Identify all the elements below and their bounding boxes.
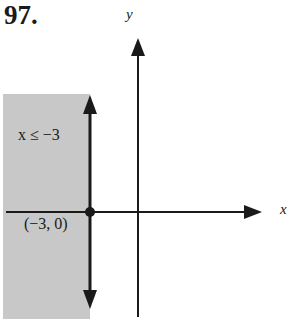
problem-number: 97. [4,0,38,31]
point-label: (−3, 0) [24,215,68,233]
graph-canvas: 97. y x x ≤ −3 (−3, 0) [0,0,287,319]
region-label: x ≤ −3 [18,126,60,144]
x-axis-arrow-icon [244,205,262,219]
x-axis-label: x [280,201,287,218]
intercept-point [85,207,95,217]
y-axis-arrow-icon [131,38,145,56]
y-axis-label: y [126,6,133,23]
graph-svg [0,0,287,319]
